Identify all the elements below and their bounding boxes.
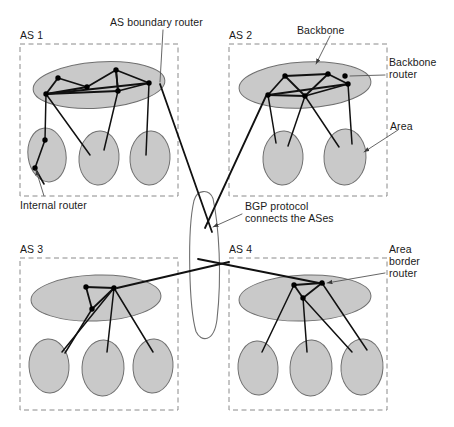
backbone-router-node-as1-3[interactable]: [43, 91, 48, 96]
area-ellipse-as2-1: [323, 128, 367, 185]
backbone-router-node-as3-1[interactable]: [111, 285, 116, 290]
backbone-ellipse-as2: [238, 59, 372, 112]
area-ellipse-as3-1: [81, 339, 125, 396]
bgp-leader: [213, 214, 242, 227]
backbone-router-node-as4-2[interactable]: [300, 295, 305, 300]
area-ellipse-as1-0: [24, 126, 69, 185]
backbone-router-node-as1-2[interactable]: [113, 67, 118, 72]
backbone-router-node-as2-3[interactable]: [345, 81, 350, 86]
network-diagram-svg: [0, 0, 454, 427]
area-leader: [364, 130, 398, 152]
backbone-link-as2-4: [268, 95, 305, 96]
label-area-border-router-line3: router: [389, 267, 417, 280]
area-ellipse-as4-0: [237, 340, 280, 396]
backbone-router-node-as3-0[interactable]: [83, 284, 88, 289]
backbone-router-node-as2-4[interactable]: [265, 92, 270, 97]
backbone-router-node-as3-2[interactable]: [89, 306, 94, 311]
diagram-canvas: AS 1 AS 2 AS 3 AS 4 AS boundary router B…: [0, 0, 454, 427]
label-area-border-router-line2: border: [389, 255, 420, 268]
backbone-router-node-as2-1[interactable]: [325, 71, 330, 76]
area-ellipse-as2-0: [262, 130, 305, 186]
label-backbone: Backbone: [297, 24, 345, 37]
area-ellipse-as4-1: [289, 339, 333, 396]
as-label-as3: AS 3: [20, 243, 43, 256]
backbone-router-node-as4-1[interactable]: [319, 280, 324, 285]
internal-router-node-as1-0[interactable]: [42, 137, 47, 142]
as-label-as4: AS 4: [229, 243, 252, 256]
backbone-router-node-as1-5[interactable]: [146, 80, 151, 85]
label-bgp-protocol-line2: connects the ASes: [245, 212, 334, 225]
internal-router-node-as1-1[interactable]: [32, 165, 37, 170]
backbone-router-node-as2-5[interactable]: [302, 93, 307, 98]
area-ellipse-as1-1: [77, 130, 121, 187]
backbone-router-node-as1-0[interactable]: [55, 75, 60, 80]
backbone-link-as3-0: [86, 287, 114, 288]
label-area-border-router-line1: Area: [389, 243, 412, 256]
area-ellipse-as1-2: [129, 130, 172, 186]
as-label-as1: AS 1: [20, 29, 43, 42]
backbone-router-node-as1-1[interactable]: [84, 84, 89, 89]
backbone-router-node-as1-4[interactable]: [115, 88, 120, 93]
label-backbone-router-line2: router: [389, 68, 417, 81]
label-as-boundary-router: AS boundary router: [110, 16, 203, 29]
label-area: Area: [390, 120, 413, 133]
as-label-as2: AS 2: [229, 29, 252, 42]
label-internal-router: Internal router: [20, 199, 87, 212]
area-ellipse-as3-2: [132, 338, 175, 394]
backbone-router-node-as4-0[interactable]: [291, 282, 296, 287]
backbone-leader: [316, 36, 330, 64]
backbone-router-node-as2-0[interactable]: [282, 73, 287, 78]
area-link-as1-0: [45, 94, 46, 140]
backbone-ellipse-as3: [30, 273, 162, 324]
area-ellipse-as3-0: [28, 338, 71, 394]
backbone-router-node-as2-2[interactable]: [342, 73, 347, 78]
label-backbone-router-line1: Backbone: [389, 56, 437, 69]
label-bgp-protocol-line1: BGP protocol: [245, 200, 308, 213]
